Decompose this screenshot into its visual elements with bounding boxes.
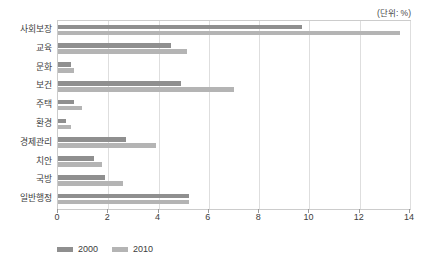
tick-mark-6 <box>208 209 209 213</box>
legend-swatch-icon <box>57 247 73 252</box>
legend-item-2000[interactable]: 2000 <box>57 244 98 254</box>
bar-2010 <box>58 68 74 73</box>
tick-mark-4 <box>158 209 159 213</box>
bar-2010 <box>58 106 82 111</box>
category-label: 보건 <box>0 76 56 95</box>
bar-2000 <box>58 25 302 30</box>
bar-2000 <box>58 62 71 67</box>
tick-mark-0 <box>57 209 58 213</box>
x-axis-tick-label: 10 <box>303 212 313 222</box>
category-label: 국방 <box>0 170 56 189</box>
bar-2000 <box>58 175 105 180</box>
bar-group <box>58 40 410 59</box>
category-label: 교육 <box>0 39 56 58</box>
x-axis-tick-label: 2 <box>105 212 110 222</box>
bar-2010 <box>58 143 156 148</box>
category-label: 문화 <box>0 58 56 77</box>
tick-mark-12 <box>359 209 360 213</box>
bar-group <box>58 115 410 134</box>
category-label: 경제관리 <box>0 133 56 152</box>
plot-area <box>57 20 411 210</box>
bar-group <box>58 21 410 40</box>
category-label: 주택 <box>0 95 56 114</box>
bar-group <box>58 153 410 172</box>
legend: 20002010 <box>57 244 153 254</box>
bar-group <box>58 59 410 78</box>
legend-label: 2000 <box>78 244 98 254</box>
bar-2000 <box>58 137 126 142</box>
bar-group <box>58 190 410 209</box>
tick-mark-8 <box>258 209 259 213</box>
bar-2000 <box>58 100 74 105</box>
category-label: 일반행정 <box>0 189 56 208</box>
bar-2010 <box>58 200 189 205</box>
value-axis-labels: 02468101214 <box>0 212 423 226</box>
category-axis-labels: 사회보장교육문화보건주택환경경제관리치안국방일반행정 <box>0 20 52 208</box>
category-label: 치안 <box>0 152 56 171</box>
bar-2010 <box>58 87 234 92</box>
x-axis-tick-label: 0 <box>54 212 59 222</box>
unit-note: (단위: %) <box>377 6 411 18</box>
bar-2000 <box>58 194 189 199</box>
bar-rows <box>58 21 410 209</box>
category-label: 사회보장 <box>0 20 56 39</box>
x-axis-tick-label: 14 <box>404 212 414 222</box>
bar-2000 <box>58 119 66 124</box>
tick-mark-14 <box>409 209 410 213</box>
x-axis-tick-label: 6 <box>205 212 210 222</box>
bar-chart: (단위: %) 사회보장교육문화보건주택환경경제관리치안국방일반행정 02468… <box>0 0 423 268</box>
bar-group <box>58 134 410 153</box>
gridline-14 <box>410 21 411 209</box>
bar-2010 <box>58 181 123 186</box>
x-axis-tick-label: 12 <box>354 212 364 222</box>
tick-mark-2 <box>107 209 108 213</box>
bar-2000 <box>58 43 171 48</box>
bar-2010 <box>58 162 102 167</box>
bar-group <box>58 77 410 96</box>
tick-mark-10 <box>308 209 309 213</box>
category-label: 환경 <box>0 114 56 133</box>
x-axis-tick-label: 4 <box>155 212 160 222</box>
bar-2010 <box>58 49 187 54</box>
bar-group <box>58 171 410 190</box>
legend-item-2010[interactable]: 2010 <box>112 244 153 254</box>
bar-2000 <box>58 81 181 86</box>
bar-2010 <box>58 31 400 36</box>
legend-swatch-icon <box>112 247 128 252</box>
bar-2000 <box>58 156 94 161</box>
bar-2010 <box>58 125 71 130</box>
bar-group <box>58 96 410 115</box>
legend-label: 2010 <box>133 244 153 254</box>
x-axis-tick-label: 8 <box>256 212 261 222</box>
